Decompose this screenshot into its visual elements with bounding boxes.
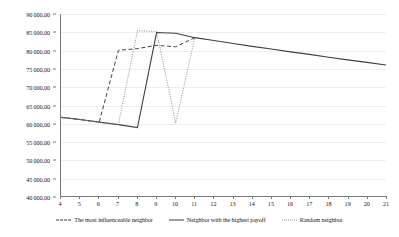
x-tick-label: 20 — [364, 200, 370, 207]
x-tick-mark — [309, 196, 310, 199]
y-tick-label: 80 000,00 — [26, 47, 50, 54]
y-tick-mark — [53, 87, 56, 88]
plot-area — [60, 14, 386, 197]
y-tick-mark — [53, 160, 56, 161]
x-tick-mark — [118, 196, 119, 199]
x-tick-label: 8 — [135, 200, 138, 207]
y-tick-mark — [53, 50, 56, 51]
legend-entry[interactable]: Neighbor with the highest payoff — [169, 216, 266, 223]
y-tick-label: 50 000,00 — [26, 157, 50, 164]
y-tick-label: 45 000,00 — [26, 175, 50, 182]
legend-line-icon — [282, 217, 297, 222]
x-tick-label: 21 — [383, 200, 389, 207]
y-tick-mark — [53, 32, 56, 33]
legend-label: The most influenceable neighbor — [74, 216, 153, 223]
y-tick-mark — [53, 178, 56, 179]
y-tick-mark — [53, 105, 56, 106]
series-container — [61, 14, 386, 196]
x-tick-label: 18 — [325, 200, 331, 207]
x-tick-label: 13 — [229, 200, 235, 207]
series-line — [61, 33, 386, 128]
x-tick-mark — [348, 196, 349, 199]
x-tick-label: 15 — [268, 200, 274, 207]
legend-line-icon — [169, 217, 184, 222]
y-tick-label: 70 000,00 — [26, 84, 50, 91]
x-tick-label: 5 — [78, 200, 81, 207]
x-tick-label: 4 — [58, 200, 61, 207]
y-tick-label: 75 000,00 — [26, 65, 50, 72]
x-tick-label: 16 — [287, 200, 293, 207]
x-tick-label: 9 — [154, 200, 157, 207]
x-tick-mark — [60, 196, 61, 199]
x-tick-label: 6 — [97, 200, 100, 207]
y-tick-label: 85 000,00 — [26, 29, 50, 36]
chart-legend: The most influenceable neighborNeighbor … — [0, 216, 399, 223]
y-tick-label: 40 000,00 — [26, 194, 50, 201]
legend-label: Neighbor with the highest payoff — [187, 216, 266, 223]
legend-label: Random neighbor — [300, 216, 343, 223]
y-tick-mark — [53, 14, 56, 15]
y-tick-label: 60 000,00 — [26, 120, 50, 127]
x-tick-mark — [290, 196, 291, 199]
x-tick-mark — [175, 196, 176, 199]
x-tick-label: 7 — [116, 200, 119, 207]
x-tick-mark — [137, 196, 138, 199]
x-tick-label: 17 — [306, 200, 312, 207]
legend-entry[interactable]: Random neighbor — [282, 216, 343, 223]
legend-entry[interactable]: The most influenceable neighbor — [56, 216, 153, 223]
y-tick-mark — [53, 142, 56, 143]
x-tick-mark — [328, 196, 329, 199]
x-tick-mark — [213, 196, 214, 199]
x-tick-label: 11 — [191, 200, 197, 207]
x-tick-mark — [194, 196, 195, 199]
x-tick-mark — [156, 196, 157, 199]
x-tick-mark — [233, 196, 234, 199]
x-tick-mark — [79, 196, 80, 199]
y-tick-mark — [53, 68, 56, 69]
y-tick-label: 55 000,00 — [26, 139, 50, 146]
y-tick-label: 65 000,00 — [26, 102, 50, 109]
x-tick-label: 14 — [249, 200, 255, 207]
x-tick-label: 19 — [345, 200, 351, 207]
x-tick-label: 12 — [210, 200, 216, 207]
y-tick-label: 90 000,00 — [26, 11, 50, 18]
legend-line-icon — [56, 217, 71, 222]
x-tick-mark — [386, 196, 387, 199]
x-tick-mark — [98, 196, 99, 199]
x-tick-mark — [271, 196, 272, 199]
y-axis: 40 000,0045 000,0050 000,0055 000,0060 0… — [0, 14, 56, 197]
x-tick-mark — [367, 196, 368, 199]
y-tick-mark — [53, 197, 56, 198]
chart-figure: 40 000,0045 000,0050 000,0055 000,0060 0… — [0, 0, 399, 237]
series-line — [61, 31, 195, 125]
x-tick-mark — [252, 196, 253, 199]
x-axis: 456789101112131415161718192021 — [60, 199, 386, 211]
x-tick-label: 10 — [172, 200, 178, 207]
y-tick-mark — [53, 123, 56, 124]
